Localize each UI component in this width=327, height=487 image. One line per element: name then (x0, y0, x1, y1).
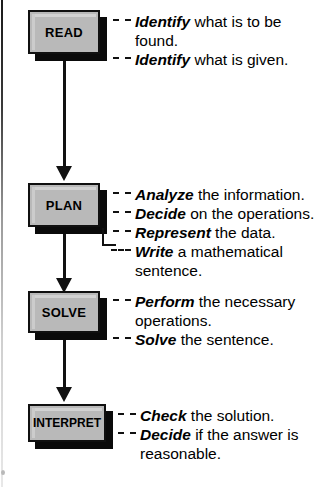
arrow-read-to-plan (63, 61, 66, 172)
list-item: Solve the sentence. (135, 330, 325, 349)
list-item-lead: Check (140, 407, 187, 424)
list-item: Perform the necessary operations. (135, 292, 325, 330)
step-node-read-label: READ (45, 25, 83, 40)
list-item-rest: a mathematical (173, 243, 282, 260)
step-node-solve[interactable]: SOLVE (28, 291, 100, 333)
step-node-plan-label: PLAN (46, 198, 83, 213)
arrow-solve-to-interpret-head (56, 387, 72, 402)
list-item-rest: the sentence. (176, 331, 273, 348)
page-edge-artifact (1, 0, 3, 487)
list-item-rest: the data. (211, 224, 276, 241)
step-node-plan[interactable]: PLAN (28, 183, 100, 227)
dash-connector-icon (113, 192, 131, 194)
flowchart-canvas: READ Identify what is to be found. Ident… (0, 0, 327, 487)
step-node-solve-label: SOLVE (42, 305, 87, 320)
list-item-lead: Decide (135, 205, 186, 222)
arrow-read-to-plan-head (56, 166, 72, 181)
list-item-continuation: operations. (135, 311, 325, 330)
dash-connector-icon (118, 432, 136, 434)
step-node-solve-face: SOLVE (28, 291, 100, 333)
dash-connector-icon (113, 211, 131, 213)
list-item-lead: Solve (135, 331, 176, 348)
list-item: Write a mathematical sentence. (135, 242, 325, 280)
list-item: Identify what is to be found. (135, 12, 323, 50)
dash-connector-icon (113, 230, 131, 232)
list-item-continuation: sentence. (135, 261, 325, 280)
list-item-lead: Represent (135, 224, 211, 241)
dash-connector-icon (118, 413, 136, 415)
list-item-lead: Analyze (135, 186, 194, 203)
list-item: Analyze the information. (135, 185, 325, 204)
step-node-plan-face: PLAN (28, 183, 100, 227)
step-text-interpret: Check the solution. Decide if the answer… (140, 406, 325, 463)
step-node-interpret-label: INTERPRET (33, 416, 101, 430)
list-item-lead: Identify (135, 51, 190, 68)
list-item: Check the solution. (140, 406, 325, 425)
list-item-rest: the information. (194, 186, 305, 203)
list-item: Represent the data. (135, 223, 325, 242)
list-item-continuation: reasonable. (140, 444, 325, 463)
list-item-rest: if the answer is (191, 426, 299, 443)
list-item-rest: on the operations. (186, 205, 314, 222)
step-node-read[interactable]: READ (28, 10, 100, 54)
step-node-interpret[interactable]: INTERPRET (28, 404, 106, 442)
list-item-continuation: found. (135, 31, 323, 50)
dash-connector-icon (113, 299, 131, 301)
step-node-interpret-face: INTERPRET (28, 404, 106, 442)
page-speck-artifact (1, 470, 5, 475)
dash-connector-icon (113, 337, 131, 339)
list-item: Decide on the operations. (135, 204, 325, 223)
step-text-solve: Perform the necessary operations. Solve … (135, 292, 325, 349)
step-text-read: Identify what is to be found. Identify w… (135, 12, 323, 69)
list-item: Decide if the answer is reasonable. (140, 425, 325, 463)
dash-connector-icon (113, 57, 131, 59)
arrow-plan-to-solve (63, 234, 66, 284)
list-item-lead: Perform (135, 293, 194, 310)
list-item-rest: what is given. (190, 51, 288, 68)
list-item: Identify what is given. (135, 50, 323, 69)
list-item-lead: Decide (140, 426, 191, 443)
dash-connector-icon (113, 19, 131, 21)
list-item-lead: Write (135, 243, 173, 260)
list-item-rest: the necessary (194, 293, 295, 310)
arrow-solve-to-interpret (63, 340, 66, 392)
list-item-rest: what is to be (190, 13, 281, 30)
step-node-read-face: READ (28, 10, 100, 54)
list-item-lead: Identify (135, 13, 190, 30)
dash-connector-icon (111, 249, 131, 251)
step-text-plan: Analyze the information. Decide on the o… (135, 185, 325, 280)
list-item-rest: the solution. (187, 407, 275, 424)
